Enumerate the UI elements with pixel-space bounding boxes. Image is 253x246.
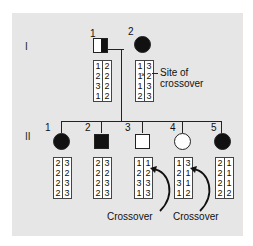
descent-line [121,49,122,121]
haplotype-left: 1231 [135,158,143,198]
crossover-label-II3: Crossover [107,211,153,222]
haplotype-left: 1231 [94,61,102,101]
site-of-crossover-label-line2: crossover [160,78,203,89]
individual-number-II4: 4 [170,123,176,133]
site-of-crossover-label-line1: Site of [160,67,188,78]
haplotype-box-I1: 1231 2222 [93,60,112,102]
individual-number-II5: 5 [211,123,217,133]
haplotype-right: 3233 [102,158,111,198]
generation-label-II: II [25,131,31,142]
generation-label-I: I [25,41,28,52]
male-carrier-symbol-I1 [93,38,108,53]
female-unaffected-symbol-II4 [174,133,191,150]
haplotype-right: 1112 [224,158,233,198]
male-unaffected-symbol-II3 [135,134,150,149]
haplotype-box-II1: 2222 3233 [53,157,72,199]
haplotype-right: 3233 [144,61,153,101]
male-affected-symbol-II2 [94,134,109,149]
individual-number-II2: 2 [85,123,91,133]
haplotype-left: 1112 [136,61,144,101]
site-of-crossover-pointer [152,73,158,74]
child-drop-line [101,121,102,133]
haplotype-left: 2222 [94,158,102,198]
child-drop-line [61,121,62,133]
child-drop-line [182,121,183,133]
child-drop-line [142,121,143,133]
haplotype-right: 3233 [62,158,71,198]
crossover-label-II4: Crossover [173,211,219,222]
female-affected-symbol-II5 [214,133,231,150]
crossover-mark-icon: × [141,71,145,78]
haplotype-box-I2: 1112 3233 [135,60,154,102]
haplotype-right: 2222 [102,61,111,101]
individual-number-II1: 1 [45,123,51,133]
individual-number-I2: 2 [128,27,134,37]
individual-number-II3: 3 [125,123,131,133]
haplotype-box-II2: 2222 3233 [93,157,112,199]
haplotype-left: 2222 [54,158,62,198]
child-drop-line [221,121,222,133]
female-affected-symbol-II1 [53,133,70,150]
female-affected-symbol-I2 [134,36,151,53]
